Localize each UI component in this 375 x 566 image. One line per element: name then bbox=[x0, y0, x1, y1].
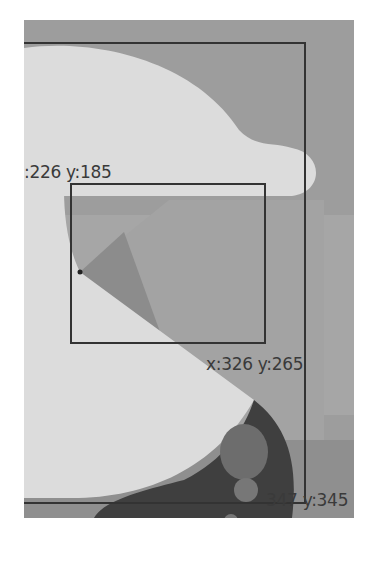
image-canvas: :226 y:185 x:326 y:265 347 y:345 bbox=[24, 20, 354, 518]
inner-bounding-box bbox=[70, 183, 266, 344]
inner-bottom-right-label: x:326 y:265 bbox=[206, 354, 303, 374]
outer-bottom-right-label: 347 y:345 bbox=[266, 490, 348, 510]
inner-top-left-label: :226 y:185 bbox=[24, 162, 112, 182]
